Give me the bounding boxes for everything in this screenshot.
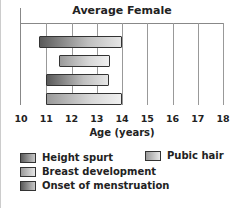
legend-breast-development: Breast development xyxy=(20,166,156,177)
bar-onset-of-menstruation xyxy=(46,93,122,105)
x-tick-label: 12 xyxy=(62,113,82,124)
page-edge xyxy=(0,0,1,208)
gridline xyxy=(198,23,199,105)
x-tick-label: 10 xyxy=(11,113,31,124)
legend-swatch-icon xyxy=(145,151,161,161)
legend-swatch-icon xyxy=(20,181,36,191)
x-tick-label: 15 xyxy=(137,113,157,124)
x-tick-label: 14 xyxy=(112,113,132,124)
gridline xyxy=(147,23,148,105)
x-axis-label: Age (years) xyxy=(21,127,223,138)
bar-height-spurt xyxy=(39,36,122,48)
x-tick-label: 13 xyxy=(87,113,107,124)
legend-swatch-icon xyxy=(20,167,36,177)
gridline xyxy=(173,23,174,105)
legend-height-spurt: Height spurt xyxy=(20,152,113,163)
legend-pubic-hair: Pubic hair xyxy=(145,150,224,161)
bar-breast-development xyxy=(46,74,109,86)
bar-pubic-hair xyxy=(59,55,110,67)
x-tick-label: 17 xyxy=(188,113,208,124)
x-tick-label: 11 xyxy=(36,113,56,124)
gridline xyxy=(223,23,224,105)
x-tick-label: 18 xyxy=(213,113,233,124)
x-tick-label: 16 xyxy=(163,113,183,124)
gridline xyxy=(122,23,123,105)
chart-title: Average Female xyxy=(21,4,223,17)
legend-onset-menstruation: Onset of menstruation xyxy=(20,180,169,191)
legend-swatch-icon xyxy=(20,153,36,163)
